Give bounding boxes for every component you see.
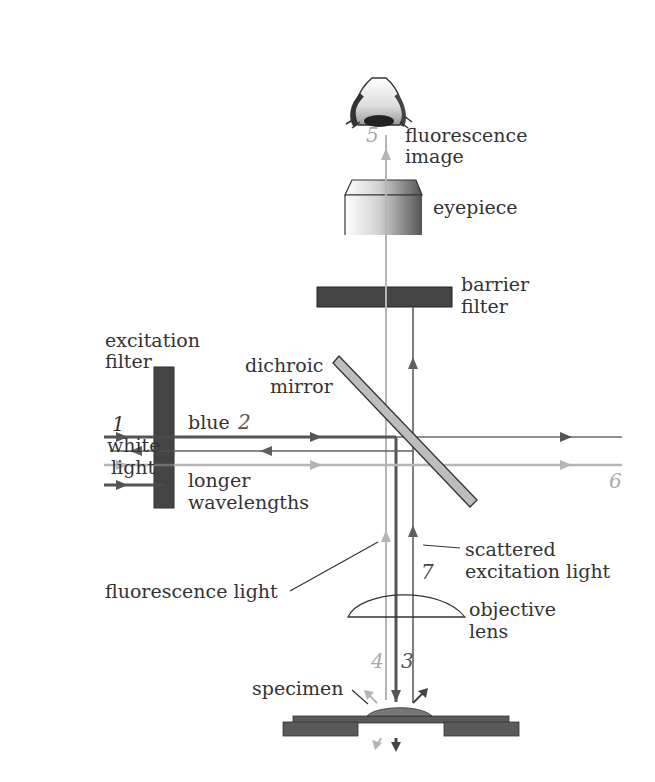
label-fluorescence-image-2: image bbox=[405, 145, 464, 167]
number-2: 2 bbox=[237, 410, 251, 434]
label-longer-wavelengths: longer bbox=[188, 469, 251, 491]
scattered-light-pointer bbox=[423, 545, 460, 548]
objective-lens bbox=[348, 595, 465, 617]
dichroic-mirror bbox=[333, 356, 477, 507]
label-blue: blue bbox=[188, 411, 230, 433]
label-eyepiece: eyepiece bbox=[433, 196, 518, 218]
label-barrier-filter: barrier bbox=[461, 273, 530, 295]
number-4: 4 bbox=[370, 649, 384, 673]
label-barrier-filter-2: filter bbox=[461, 295, 509, 317]
fluorescence-light-pointer bbox=[290, 542, 378, 591]
label-specimen: specimen bbox=[252, 677, 343, 699]
label-dichroic-mirror-2: mirror bbox=[270, 375, 334, 397]
number-5: 5 bbox=[366, 123, 379, 147]
label-longer-wavelengths-2: wavelengths bbox=[188, 491, 309, 513]
label-white-light: white bbox=[107, 434, 160, 456]
number-1: 1 bbox=[112, 412, 125, 436]
label-white-light-2: light bbox=[111, 456, 156, 478]
label-excitation-filter: excitation bbox=[105, 329, 200, 351]
label-objective-lens: objective bbox=[469, 598, 556, 620]
fluorescence-microscope-diagram: fluorescence image eyepiece barrier filt… bbox=[0, 0, 655, 782]
label-fluorescence-image: fluorescence bbox=[405, 124, 527, 146]
blue-down-beam bbox=[391, 437, 401, 702]
label-scattered-excitation-2: excitation light bbox=[465, 560, 611, 582]
label-fluorescence-light: fluorescence light bbox=[105, 580, 278, 602]
number-6: 6 bbox=[609, 469, 622, 493]
label-dichroic-mirror: dichroic bbox=[245, 354, 323, 376]
specimen-stage bbox=[283, 708, 519, 736]
eyepiece bbox=[345, 180, 422, 235]
number-7: 7 bbox=[421, 560, 434, 584]
label-objective-lens-2: lens bbox=[469, 620, 508, 642]
white-light-beams bbox=[104, 432, 622, 490]
label-excitation-filter-2: filter bbox=[105, 350, 153, 372]
barrier-filter bbox=[317, 287, 452, 307]
number-3: 3 bbox=[401, 649, 414, 673]
scattered-excitation-beam bbox=[408, 307, 418, 703]
eye-icon bbox=[346, 78, 412, 128]
label-scattered-excitation: scattered bbox=[465, 538, 556, 560]
